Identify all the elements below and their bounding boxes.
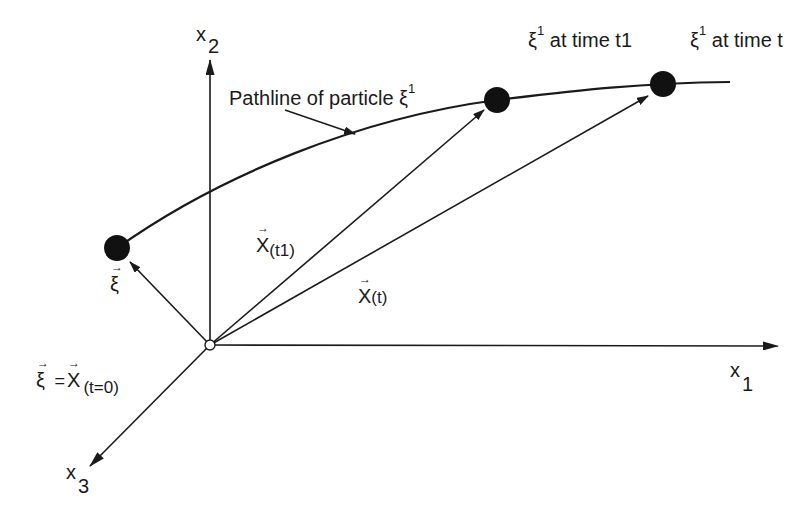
pathline-label-text: Pathline of particle ξ: [229, 87, 408, 109]
vector-arrow-icon: →: [37, 357, 49, 369]
x1-axis: [210, 345, 778, 346]
pathline-pointer-arrow: [285, 110, 355, 134]
x3-axis: [90, 345, 210, 466]
x1-index: 1: [742, 373, 753, 395]
vector-arrow-icon: →: [359, 273, 371, 285]
vector-arrow-icon: →: [111, 261, 123, 273]
x-symbol: X: [256, 234, 269, 256]
x-symbol: X: [67, 369, 80, 391]
particle-at-t1: [484, 87, 510, 113]
x3-axis-label: x3: [66, 462, 87, 482]
initial-condition-subscript: (t=0): [83, 378, 118, 397]
particle-at-t: [650, 71, 676, 97]
initial-condition-equation: →ξ =→X(t=0): [36, 370, 119, 390]
xi-symbol: ξ: [690, 29, 699, 51]
x-t-vector: [210, 96, 648, 345]
xi-vector: [130, 262, 210, 345]
x2-index: 2: [208, 35, 219, 57]
x1-symbol: x: [730, 359, 740, 381]
x-t1-vector: [210, 110, 484, 345]
xi-symbol: ξ: [36, 369, 45, 391]
xi-superscript: 1: [699, 23, 706, 38]
x-t-subscript: (t): [371, 288, 387, 307]
equals-sign: =: [55, 371, 66, 391]
particle-t-text: at time t: [712, 29, 783, 51]
origin-point: [205, 340, 215, 350]
pathline-label: Pathline of particle ξ1: [229, 86, 415, 108]
xi-superscript: 1: [537, 23, 544, 38]
x3-index: 3: [78, 475, 89, 497]
x-t-vector-label: →X(t): [358, 286, 387, 306]
particle-t1-label: ξ1 at time t1: [528, 28, 632, 50]
x3-symbol: x: [66, 461, 76, 483]
x2-axis-label: x2: [196, 24, 217, 44]
particle-t1-text: at time t1: [550, 29, 632, 51]
xi-vector-label: →ξ: [110, 274, 119, 294]
particle-t-label: ξ1 at time t: [690, 28, 783, 50]
x-t1-subscript: (t1): [269, 241, 295, 260]
xi-symbol: ξ: [110, 273, 119, 295]
particle-initial: [104, 235, 130, 261]
xi-symbol: ξ: [528, 29, 537, 51]
vector-arrow-icon: →: [257, 222, 269, 234]
x2-symbol: x: [196, 23, 206, 45]
pathline-superscript: 1: [408, 81, 415, 96]
x-symbol: X: [358, 285, 371, 307]
x1-axis-label: x1: [730, 360, 751, 380]
vector-arrow-icon: →: [68, 357, 80, 369]
x-t1-vector-label: →X(t1): [256, 235, 295, 255]
